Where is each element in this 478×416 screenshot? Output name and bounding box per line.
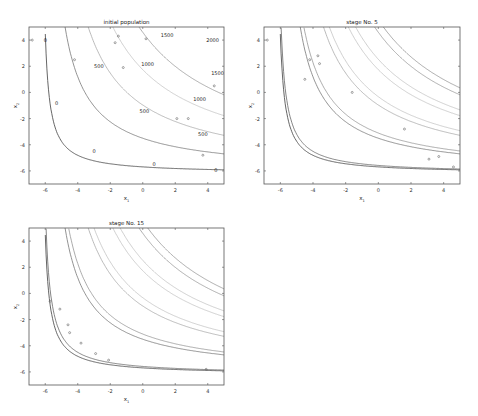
data-point: [403, 128, 405, 130]
data-point: [319, 63, 321, 65]
x-tick-label: -4: [311, 187, 316, 193]
y-axis-label: x2: [12, 103, 20, 109]
data-point: [438, 156, 440, 158]
y-axis-label: x2: [247, 103, 255, 109]
data-point: [145, 38, 147, 40]
y-tick-label: -6: [20, 168, 25, 174]
x-tick-label: -6: [278, 187, 283, 193]
y-tick-label: 0: [22, 89, 25, 95]
contour-line: [119, 226, 224, 311]
contour-label: 500: [140, 108, 150, 114]
data-point: [114, 42, 116, 44]
contour-line: [65, 226, 224, 355]
x-tick-label: 4: [206, 187, 209, 193]
x-tick-label: 4: [442, 187, 445, 193]
contour-label: 0: [92, 148, 95, 154]
data-point: [31, 39, 33, 41]
plot-area: 0000050050050010001000150015002000: [31, 25, 224, 173]
y-tick-label: -4: [20, 142, 25, 148]
contour-line: [46, 229, 224, 370]
x-tick-label: 4: [206, 388, 209, 394]
x-tick-label: -4: [75, 187, 80, 193]
data-point: [351, 91, 353, 93]
plot-area: [266, 25, 460, 170]
contour-label: 2000: [206, 37, 219, 43]
y-tick-label: -2: [20, 116, 25, 122]
x-tick-label: 0: [141, 388, 144, 394]
y-tick-label: 0: [257, 89, 260, 95]
data-point: [49, 300, 51, 302]
contour-label: 0: [214, 167, 217, 173]
data-point: [122, 67, 124, 69]
contour-line: [146, 226, 224, 289]
x-tick-label: -2: [108, 187, 113, 193]
contour-line: [355, 25, 460, 110]
chart-svg: 0000050050050010001000150015002000-6-4-2…: [0, 0, 240, 205]
data-point: [95, 353, 97, 355]
contour-label: 1000: [141, 61, 154, 67]
contour-line: [304, 28, 460, 151]
data-point: [452, 166, 454, 168]
data-point: [309, 59, 311, 61]
contour-line: [300, 25, 460, 154]
contour-label: 0: [153, 161, 156, 167]
plot-initial-population: 0000050050050010001000150015002000-6-4-2…: [0, 0, 240, 205]
x-tick-label: -6: [43, 388, 48, 394]
data-point: [304, 78, 306, 80]
data-point: [428, 158, 430, 160]
x-axis-label: x1: [124, 396, 130, 404]
x-tick-label: 0: [377, 187, 380, 193]
x-tick-label: 2: [174, 388, 177, 394]
plot-stage-15: -6-4-2024-6-4-2024stage No. 15x1x2: [0, 202, 240, 416]
contour-line: [281, 28, 460, 169]
data-point: [108, 359, 110, 361]
contour-label: 500: [94, 63, 104, 69]
chart-svg: -6-4-2024-6-4-2024stage No. 5x1x2: [240, 0, 478, 205]
x-tick-label: 2: [174, 187, 177, 193]
contour-line: [347, 25, 460, 116]
contour-line: [45, 235, 224, 371]
y-axis-label: x2: [12, 304, 20, 310]
y-tick-label: -2: [255, 116, 260, 122]
contour-line: [382, 25, 460, 88]
contour-label: 0: [55, 100, 58, 106]
contour-line: [280, 34, 460, 170]
y-tick-label: -4: [20, 343, 25, 349]
y-tick-label: 4: [257, 37, 260, 43]
y-tick-label: 4: [22, 238, 25, 244]
chart-title: stage No. 15: [109, 220, 144, 227]
chart-title: initial population: [103, 19, 150, 26]
data-point: [80, 342, 82, 344]
contour-line: [112, 226, 224, 317]
data-point: [176, 118, 178, 120]
y-tick-label: -6: [255, 168, 260, 174]
y-tick-label: -6: [20, 369, 25, 375]
contour-label: 1500: [161, 32, 174, 38]
contour-label: 1000: [193, 96, 206, 102]
data-point: [69, 332, 71, 334]
contour-line: [373, 25, 460, 95]
x-axis-label: x1: [359, 195, 365, 203]
contour-line: [88, 25, 225, 136]
y-tick-label: 0: [22, 290, 25, 296]
x-tick-label: -4: [75, 388, 80, 394]
x-tick-label: 2: [409, 187, 412, 193]
contour-label: 1500: [211, 70, 224, 76]
data-point: [74, 59, 76, 61]
y-tick-label: 2: [22, 63, 25, 69]
data-point: [317, 55, 319, 57]
contour-line: [323, 25, 460, 136]
contour-line: [69, 229, 224, 352]
data-point: [187, 118, 189, 120]
contour-line: [138, 226, 224, 295]
plot-stage-5: -6-4-2024-6-4-2024stage No. 5x1x2: [240, 0, 478, 205]
y-tick-label: -4: [255, 142, 260, 148]
x-tick-label: -2: [108, 388, 113, 394]
data-point: [59, 308, 61, 310]
y-tick-label: 4: [22, 37, 25, 43]
contour-label: 0: [44, 37, 47, 43]
x-tick-label: -6: [43, 187, 48, 193]
data-point: [213, 85, 215, 87]
x-tick-label: -2: [343, 187, 348, 193]
y-tick-label: 2: [257, 63, 260, 69]
